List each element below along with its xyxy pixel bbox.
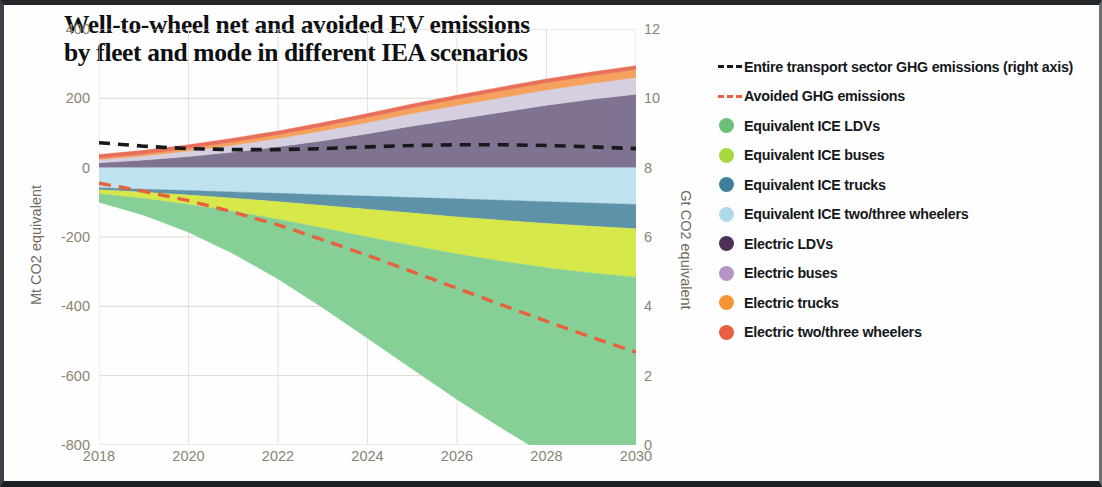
legend-dot-icon	[718, 177, 744, 192]
legend-dashed-line-icon	[718, 65, 742, 68]
legend-item-3[interactable]: Equivalent ICE buses	[718, 141, 1100, 171]
legend-item-5[interactable]: Equivalent ICE two/three wheelers	[718, 200, 1100, 230]
y-axis-left-tick: 400	[26, 21, 90, 37]
y-axis-right-tick: 4	[644, 298, 652, 314]
chart-frame: Well-to-wheel net and avoided EV emissio…	[0, 0, 1102, 487]
x-axis-tick: 2018	[83, 448, 115, 464]
x-axis-tick: 2028	[530, 448, 562, 464]
x-axis-tick: 2024	[351, 448, 383, 464]
legend-item-8[interactable]: Electric trucks	[718, 288, 1100, 318]
y-axis-right: 121086420	[644, 29, 674, 445]
y-axis-left-tick: 200	[26, 90, 90, 106]
legend-item-label: Avoided GHG emissions	[744, 88, 905, 104]
y-axis-left-tick: -600	[26, 368, 90, 384]
legend-item-label: Entire transport sector GHG emissions (r…	[744, 59, 1073, 75]
legend-dot-icon	[718, 266, 744, 281]
legend-item-9[interactable]: Electric two/three wheelers	[718, 318, 1100, 348]
legend-dot-icon	[718, 236, 744, 251]
legend-dot-icon	[718, 207, 744, 222]
legend-dashed-line-icon	[718, 95, 744, 98]
legend-item-6[interactable]: Electric LDVs	[718, 229, 1100, 259]
chart-svg	[99, 29, 636, 445]
x-axis: 2018202020222024202620282030	[99, 448, 636, 470]
legend-dot-icon	[719, 118, 734, 133]
legend-dot-icon	[719, 236, 734, 251]
legend-item-0[interactable]: Entire transport sector GHG emissions (r…	[718, 52, 1100, 82]
y-axis-right-tick: 10	[644, 90, 660, 106]
plot-area	[99, 29, 636, 445]
y-axis-right-tick: 6	[644, 229, 652, 245]
legend-item-4[interactable]: Equivalent ICE trucks	[718, 170, 1100, 200]
x-axis-tick: 2022	[262, 448, 294, 464]
legend-item-label: Electric two/three wheelers	[744, 324, 922, 340]
x-axis-tick: 2026	[441, 448, 473, 464]
legend-item-label: Electric trucks	[744, 295, 839, 311]
legend-item-1[interactable]: Avoided GHG emissions	[718, 82, 1100, 112]
legend-item-label: Equivalent ICE LDVs	[744, 118, 880, 134]
legend-dot-icon	[719, 177, 734, 192]
legend-dot-icon	[719, 148, 734, 163]
y-axis-left-tick: -800	[26, 437, 90, 453]
legend-item-label: Electric LDVs	[744, 236, 833, 252]
legend-item-label: Electric buses	[744, 265, 837, 281]
y-axis-right-title-wrap: Gt CO2 equivalent	[676, 155, 696, 345]
y-axis-left-title-wrap: Mt CO2 equivalent	[26, 155, 46, 335]
chart-legend: Entire transport sector GHG emissions (r…	[718, 52, 1100, 347]
legend-dot-icon	[719, 325, 734, 340]
legend-item-label: Equivalent ICE trucks	[744, 177, 886, 193]
legend-dashed-line-icon	[718, 95, 742, 98]
y-axis-left-title: Mt CO2 equivalent	[28, 160, 44, 330]
legend-dashed-line-icon	[718, 65, 744, 68]
legend-dot-icon	[718, 148, 744, 163]
legend-item-label: Equivalent ICE buses	[744, 147, 884, 163]
legend-item-7[interactable]: Electric buses	[718, 259, 1100, 289]
y-axis-right-tick: 12	[644, 21, 660, 37]
y-axis-right-tick: 8	[644, 160, 652, 176]
legend-dot-icon	[719, 207, 734, 222]
legend-item-label: Equivalent ICE two/three wheelers	[744, 206, 969, 222]
x-axis-tick: 2020	[172, 448, 204, 464]
y-axis-right-title: Gt CO2 equivalent	[678, 160, 694, 340]
x-axis-tick: 2030	[620, 448, 652, 464]
legend-dot-icon	[719, 295, 734, 310]
legend-dot-icon	[719, 266, 734, 281]
legend-dot-icon	[718, 325, 744, 340]
legend-dot-icon	[718, 118, 744, 133]
legend-item-2[interactable]: Equivalent ICE LDVs	[718, 111, 1100, 141]
legend-dot-icon	[718, 295, 744, 310]
y-axis-right-tick: 2	[644, 368, 652, 384]
